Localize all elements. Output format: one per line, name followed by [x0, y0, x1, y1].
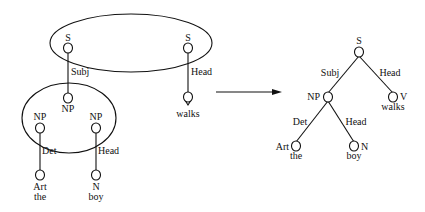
n-node — [92, 170, 101, 180]
r-head-label: Head — [379, 67, 400, 78]
r-art-label: Art — [276, 141, 290, 152]
r-np-head-label: Head — [345, 116, 366, 127]
s2-label: S — [185, 32, 191, 43]
r-np-node — [324, 92, 333, 102]
r-s-label: S — [356, 35, 362, 46]
left-structures: S Subj S Head walks NP NP Det NP Head Ar… — [22, 14, 212, 202]
det-edge-label: Det — [42, 145, 57, 156]
np-top-label: NP — [62, 103, 75, 114]
head-edge-label: Head — [191, 66, 212, 77]
r-walks-word: walks — [381, 101, 404, 112]
r-subj-label: Subj — [321, 67, 339, 78]
result-tree: S Subj Head NP V walks Det Head Art the … — [276, 35, 408, 161]
r-boy-word: boy — [347, 150, 362, 161]
np-left-label: NP — [34, 111, 47, 122]
tree-unification-diagram: S Subj S Head walks NP NP Det NP Head Ar… — [0, 0, 425, 212]
subj-edge-label: Subj — [71, 66, 89, 77]
transform-arrow — [216, 89, 282, 95]
r-n-label: N — [361, 141, 368, 152]
np-right-node — [92, 123, 101, 133]
r-det-label: Det — [293, 116, 308, 127]
r-s-node — [355, 47, 364, 57]
boy-word: boy — [89, 191, 104, 202]
walks-word: walks — [176, 108, 199, 119]
np-top-node — [64, 93, 73, 103]
the-word: the — [34, 191, 47, 202]
r-np-label: NP — [307, 91, 320, 102]
np-head-edge-label: Head — [98, 145, 119, 156]
s2-node — [184, 43, 193, 53]
r-the-word: the — [290, 150, 303, 161]
s1-node — [64, 43, 73, 53]
art-node — [36, 170, 45, 180]
s1-label: S — [65, 32, 71, 43]
np-right-label: NP — [90, 111, 103, 122]
arrow-head-icon — [272, 89, 282, 95]
v-node — [184, 92, 193, 102]
np-left-node — [36, 123, 45, 133]
